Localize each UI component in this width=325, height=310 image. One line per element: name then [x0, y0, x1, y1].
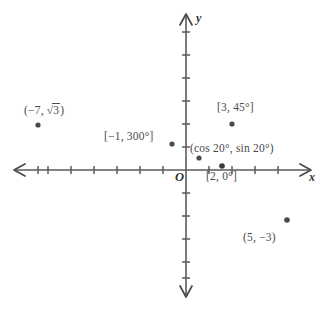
point-label-5-neg3: (5, −3) [243, 232, 276, 244]
x-axis-label: x [309, 171, 315, 183]
point-label-neg7-sqrt3: (−7, √3) [24, 105, 64, 117]
origin-label: O [175, 171, 184, 184]
data-point-dot [196, 155, 201, 160]
point-label-polar-3-45: [3, 45°] [217, 102, 254, 114]
point-label-cos20-sin20: (cos 20°, sin 20°) [190, 143, 274, 155]
data-point-dot [219, 163, 225, 169]
sqrt-radicand: 3 [52, 103, 60, 116]
data-point-dot [35, 122, 40, 127]
point-label-polar-neg1-300: [−1, 300°] [104, 131, 154, 143]
axes-and-points-canvas [0, 0, 325, 310]
point-label-prefix: (−7, [24, 104, 47, 116]
y-axis-label: y [196, 12, 201, 24]
coordinate-plane-figure: y x O (−7, √3) [−1, 300°] [3, 45°] (cos … [0, 0, 325, 310]
data-point-dot [284, 217, 290, 223]
data-point-dot [169, 141, 174, 146]
sqrt-icon: √3 [47, 105, 60, 117]
point-label-polar-2-0: [2, 0°] [206, 171, 237, 183]
data-point-dot [229, 121, 234, 126]
point-label-suffix: ) [60, 104, 64, 116]
